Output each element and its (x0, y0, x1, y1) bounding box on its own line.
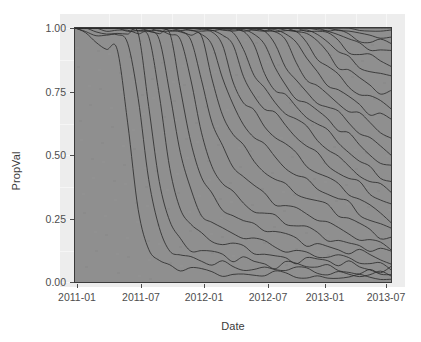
margin-gridline (268, 14, 269, 27)
margin-gridline (356, 14, 357, 27)
x-tick-label: 2012-07 (238, 291, 298, 303)
margin-gridline (60, 60, 74, 61)
x-tick-mark (386, 284, 387, 288)
x-tick-mark (141, 284, 142, 288)
background-strip-top (60, 14, 405, 27)
x-tick-mark (204, 284, 205, 288)
y-tick-label: 0.25 (26, 213, 66, 225)
margin-gridline (60, 187, 74, 188)
margin-gridline (141, 14, 142, 27)
panel-background (75, 28, 391, 282)
margin-gridline (236, 14, 237, 27)
x-tick-label: 2013-01 (295, 291, 355, 303)
x-axis-title: Date (74, 320, 392, 332)
margin-gridline (325, 14, 326, 27)
x-tick-mark (268, 284, 269, 288)
y-tick-label: 0.00 (26, 276, 66, 288)
margin-gridline (297, 14, 298, 27)
x-tick-label: 2011-07 (111, 291, 171, 303)
margin-gridline (172, 14, 173, 27)
x-tick-mark (77, 284, 78, 288)
stacked-area-plot (75, 28, 391, 282)
x-tick-label: 2011-01 (47, 291, 107, 303)
x-tick-mark (325, 284, 326, 288)
plot-panel (74, 27, 392, 283)
margin-gridline (204, 14, 205, 27)
y-tick-label: 0.50 (26, 149, 66, 161)
y-axis-title: PropVal (8, 0, 24, 342)
background-strip-bottom (60, 283, 405, 287)
margin-gridline (386, 14, 387, 27)
y-tick-label: 0.75 (26, 86, 66, 98)
x-tick-label: 2013-07 (356, 291, 416, 303)
y-tick-label: 1.00 (26, 22, 66, 34)
background-strip-right (392, 14, 405, 287)
margin-gridline (60, 124, 74, 125)
margin-gridline (60, 251, 74, 252)
chart-container: PropVal 1.00 0.75 0.50 0.25 0.00 2011-01… (0, 0, 421, 342)
x-tick-label: 2012-01 (174, 291, 234, 303)
margin-gridline (109, 14, 110, 27)
